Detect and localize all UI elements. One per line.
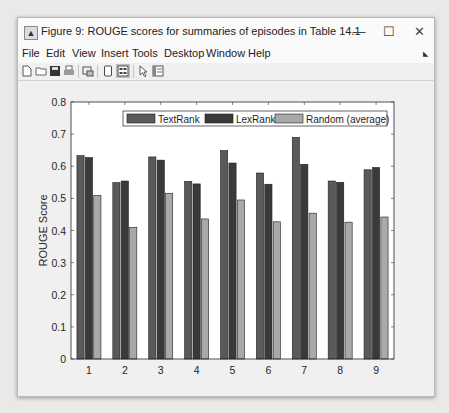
y-tick-label: 0.8: [51, 96, 66, 108]
x-tick-label: 3: [158, 364, 164, 376]
title-bar[interactable]: ▲ Figure 9: ROUGE scores for summaries o…: [18, 18, 434, 46]
bar-random-average--6[interactable]: [273, 222, 280, 359]
bar-chart[interactable]: 12345678900.10.20.30.40.50.60.70.8ROUGE …: [18, 81, 434, 396]
dock-figure-icon[interactable]: ◣: [423, 50, 428, 58]
close-button[interactable]: ✕: [404, 22, 434, 42]
maximize-icon: ☐: [383, 24, 395, 39]
x-tick-label: 9: [373, 364, 379, 376]
x-tick-label: 6: [265, 364, 271, 376]
bar-random-average--9[interactable]: [381, 217, 388, 359]
menu-insert[interactable]: Insert: [101, 47, 129, 59]
legend-swatch: [127, 114, 155, 123]
figure-canvas: 12345678900.10.20.30.40.50.60.70.8ROUGE …: [18, 81, 434, 396]
menu-file[interactable]: File: [22, 47, 40, 59]
legend-label: LexRank: [236, 114, 276, 125]
open-file-icon[interactable]: [35, 65, 47, 77]
bar-random-average--1[interactable]: [94, 195, 101, 359]
bar-lexrank-3[interactable]: [157, 160, 164, 359]
bar-lexrank-8[interactable]: [337, 182, 344, 359]
y-axis-label: ROUGE Score: [37, 194, 49, 266]
x-tick-label: 4: [194, 364, 200, 376]
bar-lexrank-9[interactable]: [372, 168, 379, 359]
y-tick-label: 0.3: [51, 257, 66, 269]
menu-tools[interactable]: Tools: [132, 47, 158, 59]
maximize-button[interactable]: ☐: [374, 22, 404, 42]
menu-edit[interactable]: Edit: [46, 47, 65, 59]
bar-textrank-5[interactable]: [221, 151, 228, 359]
hide-plot-tools-icon[interactable]: [102, 65, 114, 77]
toolbar-separator: [133, 65, 134, 78]
x-tick-label: 5: [230, 364, 236, 376]
new-figure-icon[interactable]: [21, 65, 33, 77]
bar-textrank-8[interactable]: [328, 181, 335, 359]
bar-lexrank-2[interactable]: [121, 181, 128, 359]
bar-lexrank-7[interactable]: [301, 164, 308, 359]
y-tick-label: 0.4: [51, 225, 66, 237]
minimize-button[interactable]: —: [344, 22, 374, 42]
legend-swatch: [275, 114, 303, 123]
y-tick-label: 0.1: [51, 321, 66, 333]
menu-window[interactable]: Window: [206, 47, 245, 59]
save-icon[interactable]: [49, 65, 61, 77]
x-tick-label: 7: [301, 364, 307, 376]
bar-lexrank-1[interactable]: [85, 158, 92, 359]
x-tick-label: 8: [337, 364, 343, 376]
bar-random-average--3[interactable]: [166, 193, 173, 359]
bar-lexrank-6[interactable]: [265, 184, 272, 359]
figure-toolbar: [18, 63, 434, 81]
bar-textrank-2[interactable]: [113, 183, 120, 359]
bar-textrank-4[interactable]: [185, 181, 192, 359]
menu-view[interactable]: View: [72, 47, 96, 59]
minimize-icon: —: [353, 24, 366, 39]
bar-random-average--4[interactable]: [201, 219, 208, 359]
y-tick-label: 0: [60, 353, 66, 365]
bar-random-average--8[interactable]: [345, 222, 352, 359]
legend-swatch: [205, 114, 233, 123]
legend-label: Random (average): [306, 114, 389, 125]
menu-bar: File Edit View Insert Tools Desktop Wind…: [18, 46, 434, 63]
bar-textrank-1[interactable]: [77, 156, 84, 359]
y-tick-label: 0.7: [51, 128, 66, 140]
bar-random-average--5[interactable]: [237, 200, 244, 359]
y-tick-label: 0.5: [51, 192, 66, 204]
x-tick-label: 1: [86, 364, 92, 376]
edit-plot-arrow-icon[interactable]: [138, 65, 150, 77]
legend-label: TextRank: [158, 114, 201, 125]
bar-lexrank-5[interactable]: [229, 163, 236, 359]
toolbar-separator: [97, 65, 98, 78]
bar-textrank-7[interactable]: [292, 137, 299, 359]
bar-random-average--7[interactable]: [309, 213, 316, 359]
figure-window: ▲ Figure 9: ROUGE scores for summaries o…: [17, 17, 435, 397]
window-title: Figure 9: ROUGE scores for summaries of …: [41, 25, 361, 37]
menu-help[interactable]: Help: [248, 47, 271, 59]
link-plot-icon[interactable]: [82, 65, 94, 77]
y-tick-label: 0.2: [51, 289, 66, 301]
bar-lexrank-4[interactable]: [193, 184, 200, 359]
bar-textrank-6[interactable]: [256, 173, 263, 359]
y-tick-label: 0.6: [51, 160, 66, 172]
menu-desktop[interactable]: Desktop: [164, 47, 204, 59]
x-tick-label: 2: [122, 364, 128, 376]
close-icon: ✕: [414, 24, 425, 39]
toolbar-separator: [78, 65, 79, 78]
print-icon[interactable]: [63, 65, 75, 77]
bar-textrank-9[interactable]: [364, 170, 371, 359]
matlab-figure-icon: ▲: [24, 26, 38, 40]
bar-textrank-3[interactable]: [149, 157, 156, 359]
show-plot-tools-icon[interactable]: [117, 65, 129, 77]
bar-random-average--2[interactable]: [130, 227, 137, 359]
open-property-inspector-icon[interactable]: [152, 65, 164, 77]
